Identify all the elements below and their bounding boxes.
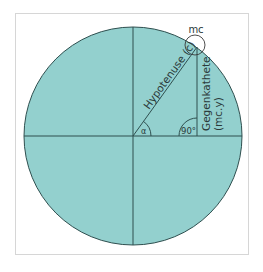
alpha-label: α	[141, 127, 146, 136]
opposite-side-label: Gegenkathete	[200, 56, 212, 131]
right-angle-label: 90°	[181, 126, 196, 136]
mc-label: mc	[188, 24, 203, 35]
opposite-side-sublabel: (mc.y)	[212, 97, 224, 131]
unit-circle-diagram: mc Hypotenuse (c) Gegenkathete (mc.y) α …	[0, 0, 263, 272]
